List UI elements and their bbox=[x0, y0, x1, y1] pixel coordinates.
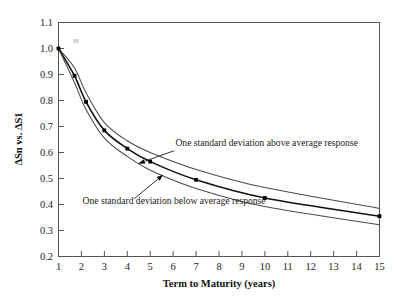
y-tick-label: 1.0 bbox=[40, 43, 53, 54]
y-tick-label: 0.7 bbox=[40, 121, 53, 132]
data-point-marker bbox=[194, 178, 198, 182]
annotation-label: One standard deviation below average res… bbox=[83, 195, 266, 206]
y-axis-tick-labels: 1.1 1.0 0.9 0.8 0.7 0.6 0.5 0.4 0.3 0.2 bbox=[40, 17, 54, 262]
y-tick-label: 1.1 bbox=[40, 17, 53, 28]
x-tick-label: 6 bbox=[170, 261, 175, 272]
data-point-marker bbox=[102, 129, 106, 133]
x-tick-label: 14 bbox=[351, 261, 362, 272]
x-tick-label: 10 bbox=[260, 261, 271, 272]
y-tick-label: 0.8 bbox=[40, 95, 53, 106]
annotation-below: One standard deviation below average res… bbox=[83, 175, 266, 206]
y-tick-label: 0.5 bbox=[40, 173, 53, 184]
annotation-above: One standard deviation above average res… bbox=[139, 137, 358, 164]
arrow-head-icon bbox=[139, 159, 145, 164]
x-tick-label: 15 bbox=[374, 261, 385, 272]
x-tick-label: 8 bbox=[216, 261, 221, 272]
x-tick-label: 2 bbox=[79, 261, 84, 272]
x-tick-label: 5 bbox=[148, 261, 153, 272]
x-tick-label: 9 bbox=[239, 261, 244, 272]
x-tick-label: 12 bbox=[305, 261, 316, 272]
x-tick-label: 3 bbox=[102, 261, 107, 272]
x-tick-label: 13 bbox=[328, 261, 339, 272]
x-axis-ticks bbox=[59, 251, 380, 257]
data-point-marker bbox=[125, 147, 129, 151]
y-axis-title: ΔSn vs. ΔS1 bbox=[13, 112, 24, 165]
y-tick-label: 0.2 bbox=[40, 251, 53, 262]
y-tick-label: 0.6 bbox=[40, 147, 53, 158]
y-tick-label: 0.4 bbox=[40, 199, 54, 210]
x-tick-label: 7 bbox=[193, 261, 198, 272]
x-tick-label: 4 bbox=[125, 261, 131, 272]
chart-figure: 1.1 1.0 0.9 0.8 0.7 0.6 0.5 0.4 0.3 0.2 bbox=[0, 0, 397, 297]
scan-artifact-speck bbox=[73, 39, 79, 43]
series-curve bbox=[59, 49, 380, 209]
annotation-label: One standard deviation above average res… bbox=[175, 137, 357, 148]
data-point-marker bbox=[84, 100, 88, 104]
x-tick-label: 11 bbox=[283, 261, 293, 272]
line-chart: 1.1 1.0 0.9 0.8 0.7 0.6 0.5 0.4 0.3 0.2 bbox=[0, 0, 397, 297]
x-axis-tick-labels: 1 2 3 4 5 6 7 8 9 10 11 12 13 14 15 bbox=[56, 261, 385, 272]
y-tick-label: 0.3 bbox=[40, 225, 53, 236]
data-point-marker bbox=[57, 47, 61, 51]
x-tick-label: 1 bbox=[56, 261, 61, 272]
data-point-marker bbox=[378, 214, 382, 218]
data-point-marker bbox=[73, 74, 77, 78]
data-point-marker bbox=[148, 160, 152, 164]
series-curve bbox=[59, 49, 380, 217]
x-axis-title: Term to Maturity (years) bbox=[163, 278, 276, 290]
y-tick-label: 0.9 bbox=[40, 69, 53, 80]
